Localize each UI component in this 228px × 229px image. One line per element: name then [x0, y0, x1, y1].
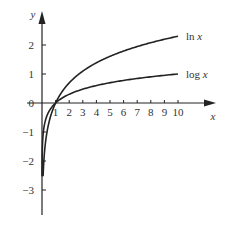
x-tick-label: 5 [107, 106, 113, 118]
x-tick-label: 3 [80, 106, 86, 118]
curve-label-ln: ln x [186, 30, 202, 42]
curve-log [42, 74, 178, 176]
labels: 12345678910210−1−2−3xyln xlog x [22, 8, 215, 196]
x-tick-label: 1 [53, 106, 59, 118]
x-tick-label: 8 [148, 106, 154, 118]
x-tick-label: 9 [162, 106, 168, 118]
x-tick-label: 4 [94, 106, 100, 118]
x-axis-label: x [210, 110, 216, 122]
log-chart: 12345678910210−1−2−3xyln xlog x [0, 0, 228, 229]
y-tick-label: 1 [29, 68, 35, 80]
y-axis-label: y [30, 8, 36, 20]
x-tick-label: 7 [134, 106, 140, 118]
x-tick-label: 6 [121, 106, 127, 118]
y-tick-label: −3 [22, 184, 34, 196]
x-axis-arrow-icon [204, 100, 216, 107]
y-tick-label: −2 [22, 155, 34, 167]
y-tick-label: −1 [22, 126, 34, 138]
x-tick-label: 10 [173, 106, 185, 118]
x-tick-label: 2 [66, 106, 72, 118]
y-tick-label: 0 [29, 97, 35, 109]
y-axis-arrow-icon [39, 11, 46, 24]
y-tick-label: 2 [29, 39, 35, 51]
curve-label-log: log x [186, 68, 208, 80]
